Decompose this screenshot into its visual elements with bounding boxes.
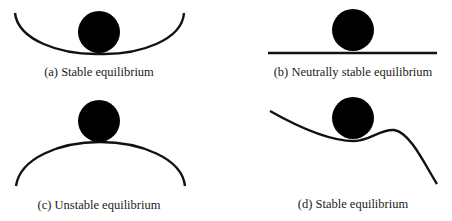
equilibrium-diagram — [0, 0, 452, 221]
ball — [332, 9, 374, 51]
panel-a-graphic — [15, 11, 184, 54]
caption-a: (a) Stable equilibrium — [44, 65, 154, 80]
caption-b: (b) Neutrally stable equilibrium — [274, 65, 433, 80]
ball — [78, 11, 120, 53]
caption-c: (c) Unstable equilibrium — [38, 198, 161, 213]
panel-b-graphic — [268, 9, 437, 53]
ball — [78, 100, 120, 142]
caption-d: (d) Stable equilibrium — [298, 197, 408, 212]
hill-surface — [16, 142, 185, 186]
panel-c-graphic — [16, 100, 185, 186]
panel-d-graphic — [270, 97, 437, 184]
ball — [332, 97, 374, 139]
